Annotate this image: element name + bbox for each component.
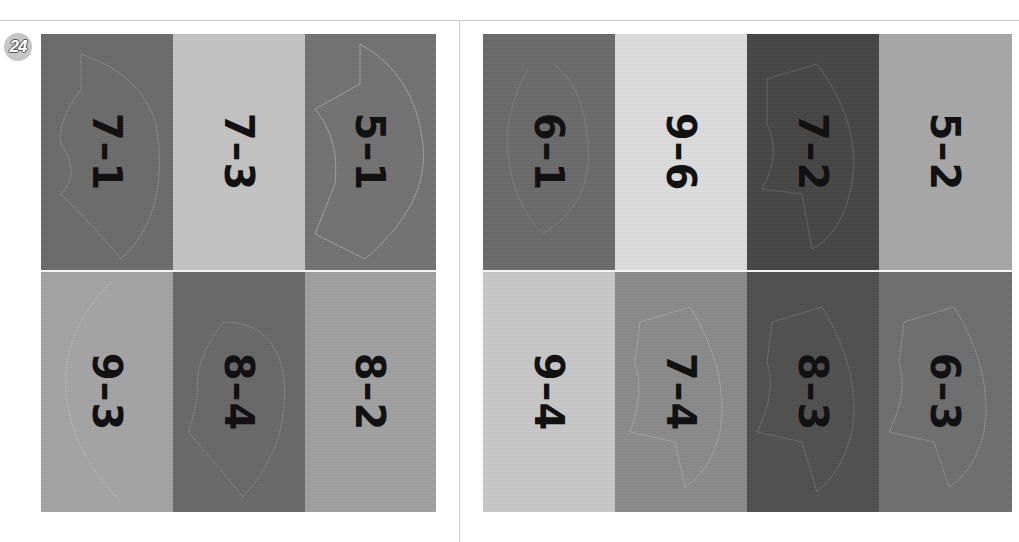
card-label: 9–6 [658,113,704,192]
card-7-3[interactable]: 7–3 [173,34,305,270]
card-9-4[interactable]: 9–4 [483,272,615,512]
card-label: 7–2 [790,113,836,192]
card-5-1[interactable]: 5–1 [305,34,436,270]
card-7-1[interactable]: 7–1 [41,34,173,270]
card-label: 8–4 [216,353,262,432]
page-number-badge: 24 [4,33,32,61]
top-rule [0,20,1019,21]
right-card-sheet: 6–1 9–6 7–2 5–2 9–4 7–4 8–3 6–3 [483,34,1012,512]
card-label: 8–3 [790,353,836,432]
card-label: 7–3 [216,113,262,192]
card-7-2[interactable]: 7–2 [747,34,879,270]
card-5-2[interactable]: 5–2 [879,34,1012,270]
card-label: 5–2 [922,113,968,192]
page-divider [459,20,460,542]
card-8-4[interactable]: 8–4 [173,272,305,512]
card-8-3[interactable]: 8–3 [747,272,879,512]
card-6-1[interactable]: 6–1 [483,34,615,270]
card-label: 7–1 [84,113,130,192]
card-label: 9–3 [84,353,130,432]
card-7-4[interactable]: 7–4 [615,272,747,512]
card-8-2[interactable]: 8–2 [305,272,436,512]
card-label: 7–4 [658,353,704,432]
card-label: 6–3 [922,353,968,432]
card-label: 6–1 [526,113,572,192]
left-card-sheet: 7–1 7–3 5–1 9–3 8–4 8–2 [41,34,436,512]
card-9-3[interactable]: 9–3 [41,272,173,512]
page-number: 24 [10,37,27,57]
card-label: 5–1 [347,113,393,192]
card-label: 9–4 [526,353,572,432]
card-6-3[interactable]: 6–3 [879,272,1012,512]
card-label: 8–2 [347,353,393,432]
card-9-6[interactable]: 9–6 [615,34,747,270]
